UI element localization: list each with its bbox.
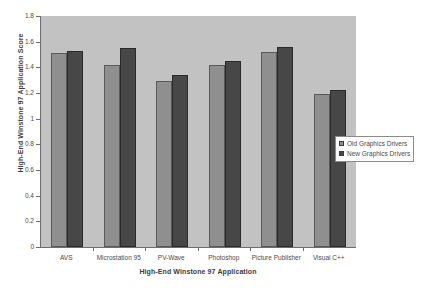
x-tick-label: PV-Wave	[145, 253, 198, 263]
y-axis-tick: 0.2	[0, 221, 40, 222]
y-tick-label: 0.2	[25, 216, 34, 225]
x-tick-label: Visual C++	[303, 253, 356, 263]
bar-picture-publisher-new	[277, 47, 293, 247]
bar-visual-c--old	[314, 94, 330, 247]
x-tick-mark	[250, 247, 251, 251]
bar-picture-publisher-old	[261, 52, 277, 247]
y-tick-mark	[36, 170, 40, 171]
legend-label: New Graphics Drivers	[347, 149, 410, 158]
y-axis-tick: 0	[0, 247, 40, 248]
y-axis-tick: 1.8	[0, 16, 40, 17]
bar-photoshop-new	[225, 61, 241, 247]
bar-chart: High-End Winstone 97 Application Score 0…	[0, 0, 432, 290]
y-tick-mark	[36, 93, 40, 94]
bar-microstation-95-old	[104, 65, 120, 247]
x-tick-label: Photoshop	[198, 253, 251, 263]
bar-pv-wave-old	[156, 81, 172, 247]
x-tick-mark	[93, 247, 94, 251]
x-tick-mark	[303, 247, 304, 251]
bar-avs-new	[67, 51, 83, 247]
y-axis-tick: 0.8	[0, 144, 40, 145]
y-tick-label: 1	[30, 114, 34, 123]
y-tick-mark	[36, 221, 40, 222]
bar-photoshop-old	[209, 65, 225, 247]
x-tick-label: AVS	[40, 253, 93, 263]
y-tick-label: 0.4	[25, 191, 34, 200]
legend-label: Old Graphics Drivers	[347, 139, 407, 148]
x-axis-title: High-End Winstone 97 Application	[40, 268, 356, 275]
y-tick-label: 0.8	[25, 139, 34, 148]
legend-swatch-icon	[339, 141, 344, 146]
bar-avs-old	[51, 53, 67, 247]
bar-microstation-95-new	[120, 48, 136, 247]
y-tick-label: 1.8	[25, 11, 34, 20]
y-tick-mark	[36, 42, 40, 43]
y-axis-tick: 1.4	[0, 67, 40, 68]
y-axis-tick: 1.6	[0, 42, 40, 43]
y-tick-label: 1.4	[25, 62, 34, 71]
plot-area	[40, 16, 356, 248]
y-tick-mark	[36, 196, 40, 197]
y-tick-label: 1.2	[25, 88, 34, 97]
y-tick-label: 0.6	[25, 165, 34, 174]
y-tick-mark	[36, 119, 40, 120]
x-tick-mark	[145, 247, 146, 251]
legend-swatch-icon	[339, 151, 344, 156]
x-tick-label: Microstation 95	[93, 253, 146, 263]
y-tick-mark	[36, 247, 40, 248]
y-tick-label: 0	[30, 242, 34, 251]
legend-item: Old Graphics Drivers	[339, 139, 410, 148]
legend: Old Graphics DriversNew Graphics Drivers	[335, 136, 414, 162]
y-tick-mark	[36, 67, 40, 68]
y-tick-mark	[36, 144, 40, 145]
legend-item: New Graphics Drivers	[339, 149, 410, 158]
y-axis-tick: 1.2	[0, 93, 40, 94]
x-tick-label: Picture Publisher	[250, 253, 303, 263]
y-axis-tick: 0.4	[0, 196, 40, 197]
bar-visual-c--new	[330, 90, 346, 247]
bar-pv-wave-new	[172, 75, 188, 247]
y-axis-tick: 1	[0, 119, 40, 120]
x-tick-mark	[198, 247, 199, 251]
y-axis-tick: 0.6	[0, 170, 40, 171]
y-tick-label: 1.6	[25, 37, 34, 46]
y-tick-mark	[36, 16, 40, 17]
